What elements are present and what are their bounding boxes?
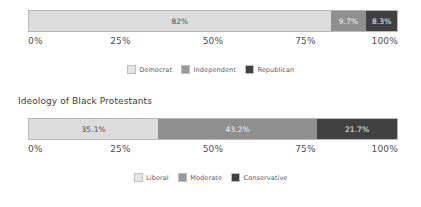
bar-segment-label-moderate: 43.2% (225, 125, 249, 134)
legend-label-independent: Independent (194, 66, 236, 74)
x-axis-tick-0: 0% (28, 144, 43, 154)
legend-label-liberal: Liberal (146, 174, 169, 182)
x-axis-1: 0% 25% 50% 75% 100% (28, 36, 398, 50)
bar-segment-republican[interactable]: 8.3% (366, 11, 397, 31)
legend-swatch-icon-conservative (231, 173, 240, 182)
x-axis-tick-25: 25% (110, 144, 131, 154)
bar-segment-label-liberal: 35.1% (81, 125, 105, 134)
bar-segment-democrat[interactable]: 82% (29, 11, 331, 31)
legend-swatch-icon-republican (245, 65, 254, 74)
legend-item-conservative[interactable]: Conservative (231, 173, 287, 182)
chart-title-2: Ideology of Black Protestants (18, 96, 152, 106)
bar-segment-liberal[interactable]: 35.1% (29, 119, 158, 139)
x-axis-tick-75: 75% (295, 36, 316, 46)
legend-label-conservative: Conservative (244, 174, 288, 182)
legend-item-independent[interactable]: Independent (181, 65, 236, 74)
bar-segment-label-conservative: 21.7% (345, 125, 369, 134)
bar-segment-independent[interactable]: 9.7% (331, 11, 367, 31)
legend-swatch-icon-moderate (178, 173, 187, 182)
legend-label-democrat: Democrat (139, 66, 172, 74)
legend-1: Democrat Independent Republican (0, 65, 421, 74)
x-axis-tick-75: 75% (295, 144, 316, 154)
stacked-bar-2: 35.1% 43.2% 21.7% (28, 118, 398, 140)
legend-2: Liberal Moderate Conservative (0, 173, 421, 182)
stacked-bar-1: 82% 9.7% 8.3% (28, 10, 398, 32)
bar-segment-moderate[interactable]: 43.2% (158, 119, 317, 139)
legend-label-republican: Republican (257, 66, 294, 74)
legend-swatch-icon-independent (181, 65, 190, 74)
x-axis-tick-100: 100% (371, 144, 398, 154)
legend-item-republican[interactable]: Republican (245, 65, 294, 74)
legend-item-moderate[interactable]: Moderate (178, 173, 222, 182)
x-axis-tick-25: 25% (110, 36, 131, 46)
bar-segment-label-republican: 8.3% (372, 17, 391, 26)
x-axis-2: 0% 25% 50% 75% 100% (28, 144, 398, 158)
legend-swatch-icon-liberal (134, 173, 143, 182)
legend-item-liberal[interactable]: Liberal (134, 173, 169, 182)
legend-item-democrat[interactable]: Democrat (127, 65, 172, 74)
stacked-bar-plot-area-2: 35.1% 43.2% 21.7% (28, 118, 398, 140)
chart-party-affiliation: 82% 9.7% 8.3% 0% 25% 50% 75% 100% Democr… (0, 0, 421, 90)
bar-segment-label-democrat: 82% (171, 17, 188, 26)
stacked-bar-plot-area-1: 82% 9.7% 8.3% (28, 10, 398, 32)
legend-swatch-icon-democrat (127, 65, 136, 74)
x-axis-tick-0: 0% (28, 36, 43, 46)
x-axis-tick-50: 50% (203, 36, 224, 46)
bar-segment-label-independent: 9.7% (339, 17, 358, 26)
chart-ideology-black-protestants: Ideology of Black Protestants 35.1% 43.2… (0, 90, 421, 207)
bar-segment-conservative[interactable]: 21.7% (317, 119, 397, 139)
x-axis-tick-50: 50% (203, 144, 224, 154)
x-axis-tick-100: 100% (371, 36, 398, 46)
legend-label-moderate: Moderate (190, 174, 222, 182)
